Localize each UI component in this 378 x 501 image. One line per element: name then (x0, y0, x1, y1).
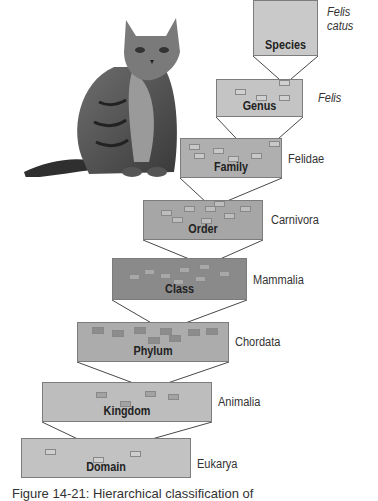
taxon-label-phylum: Chordata (235, 335, 280, 349)
rank-label: Domain (30, 460, 181, 474)
rank-label: Class (120, 282, 240, 296)
rank-box-domain: Domain (21, 438, 191, 478)
taxon-label-species: Felis catus (327, 5, 353, 33)
taxon-label-genus: Felis (318, 91, 341, 105)
rank-box-order: Order (143, 200, 263, 240)
rank-box-species: Species (253, 0, 318, 56)
taxon-label-class: Mammalia (253, 273, 304, 287)
rank-label: Family (186, 160, 276, 174)
rank-box-family: Family (180, 138, 282, 178)
taxon-label-domain: Eukarya (197, 457, 238, 471)
rank-label: Genus (221, 99, 298, 113)
rank-box-class: Class (112, 258, 247, 300)
rank-box-genus: Genus (216, 79, 303, 117)
rank-box-kingdom: Kingdom (42, 382, 212, 422)
taxon-label-family: Felidae (288, 152, 324, 166)
rank-label: Phylum (86, 344, 221, 358)
figure-caption: Figure 14-21: Hierarchical classificatio… (12, 486, 253, 501)
rank-box-phylum: Phylum (77, 322, 229, 362)
taxon-label-kingdom: Animalia (218, 395, 260, 409)
rank-label: Order (150, 222, 256, 236)
rank-label: Kingdom (51, 404, 202, 418)
cat-photo-icon (14, 12, 184, 177)
rank-label: Species (257, 38, 314, 52)
taxon-label-order: Carnivora (271, 213, 319, 227)
